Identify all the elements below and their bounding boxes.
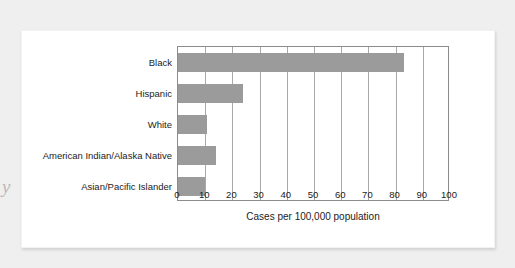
x-tick-label-80: 80	[389, 190, 400, 200]
bar-chart: BlackHispanicWhiteAmerican Indian/Alaska…	[22, 31, 494, 247]
bar	[178, 53, 404, 72]
x-tick-label-60: 60	[335, 190, 346, 200]
bar	[178, 115, 207, 134]
x-tick-label-50: 50	[308, 190, 319, 200]
bar-row: White	[178, 115, 450, 134]
x-tick-label-20: 20	[226, 190, 237, 200]
x-tick-label-100: 100	[441, 190, 457, 200]
bar-row: Black	[178, 53, 450, 72]
category-label: Black	[149, 58, 172, 68]
x-tick-label-30: 30	[253, 190, 264, 200]
x-tick-label-90: 90	[417, 190, 428, 200]
x-tick-label-40: 40	[281, 190, 292, 200]
x-tick-label-0: 0	[174, 190, 179, 200]
page-bleed-glyph: y	[2, 176, 10, 198]
x-tick-label-10: 10	[199, 190, 210, 200]
x-tick-label-70: 70	[362, 190, 373, 200]
x-axis-title: Cases per 100,000 population	[177, 211, 449, 222]
bar	[178, 146, 216, 165]
figure-card: BlackHispanicWhiteAmerican Indian/Alaska…	[21, 30, 495, 248]
bar	[178, 84, 243, 103]
category-label: Hispanic	[136, 89, 172, 99]
category-label: White	[148, 120, 172, 130]
category-label: American Indian/Alaska Native	[43, 151, 172, 161]
bar-row: Hispanic	[178, 84, 450, 103]
bar-row: American Indian/Alaska Native	[178, 146, 450, 165]
plot-area: BlackHispanicWhiteAmerican Indian/Alaska…	[177, 46, 449, 201]
category-label: Asian/Pacific Islander	[81, 182, 172, 192]
